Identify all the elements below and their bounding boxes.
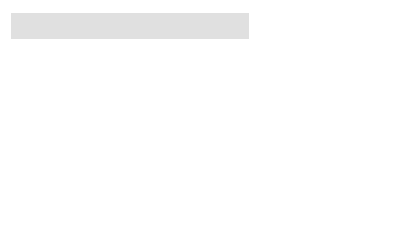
four-fourths-bar xyxy=(11,13,249,39)
